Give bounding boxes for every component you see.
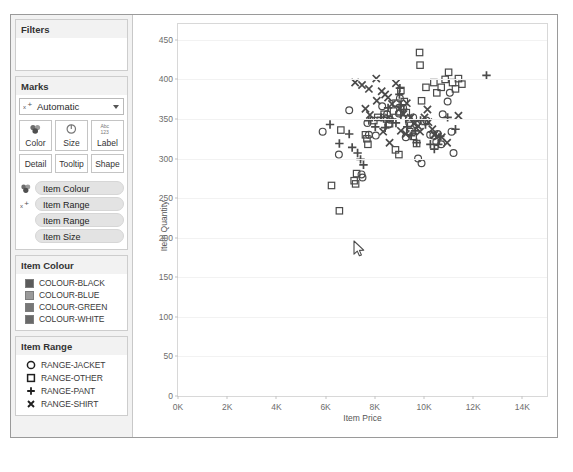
scatter-point[interactable] — [326, 120, 334, 128]
scatter-point[interactable] — [335, 139, 343, 147]
scatter-point[interactable] — [451, 125, 459, 133]
scatter-point[interactable] — [388, 100, 395, 107]
size-button-label: Size — [63, 138, 80, 148]
scatter-point[interactable] — [372, 132, 379, 139]
x-tick-label: 6K — [320, 402, 330, 412]
colour-swatch — [25, 315, 34, 324]
y-gridline — [178, 198, 547, 199]
viz-window: Filters Marks x + Automatic — [10, 14, 558, 438]
color-button[interactable]: Color — [19, 120, 52, 151]
legend-item-label: COLOUR-BLACK — [39, 278, 105, 288]
legend-item[interactable]: RANGE-JACKET — [20, 358, 123, 371]
scatter-point[interactable] — [365, 85, 372, 92]
marks-shelf-item-range-detail[interactable]: Item Range — [16, 212, 127, 228]
colour-swatch — [25, 279, 34, 288]
legend-item[interactable]: RANGE-PANT — [20, 384, 123, 397]
square-icon — [25, 372, 36, 383]
legend-item[interactable]: RANGE-SHIRT — [20, 397, 123, 410]
scatter-point[interactable] — [418, 160, 425, 167]
x-tick-label: 2K — [222, 402, 232, 412]
y-tick-mark — [175, 39, 178, 40]
marks-card: Marks x + Automatic — [15, 76, 128, 250]
tooltip-button[interactable]: Tooltip — [55, 154, 88, 173]
color-palette-icon — [19, 182, 32, 194]
y-tick-label: 100 — [159, 312, 173, 322]
scatter-point[interactable] — [358, 81, 365, 88]
scatter-point[interactable] — [430, 145, 438, 153]
label-abc-icon: Abc 123 — [100, 123, 115, 137]
filters-card-title: Filters — [16, 20, 127, 38]
scatter-point[interactable] — [373, 97, 380, 104]
scatter-point[interactable] — [418, 98, 424, 104]
scatter-point[interactable] — [417, 62, 423, 68]
x-tick-label: 12K — [466, 402, 481, 412]
scatter-point[interactable] — [362, 105, 369, 112]
legend-item[interactable]: RANGE-OTHER — [20, 371, 123, 384]
plot-area[interactable]: 0501001502002503003504004500K2K4K6K8K10K… — [177, 23, 548, 397]
y-tick-label: 350 — [159, 114, 173, 124]
scatter-point[interactable] — [444, 98, 451, 105]
legend-item[interactable]: COLOUR-GREEN — [20, 301, 123, 313]
x-tick-label: 10K — [416, 402, 431, 412]
circle-icon — [25, 359, 36, 370]
shape-button[interactable]: Shape — [91, 154, 124, 173]
scatter-point[interactable] — [386, 139, 393, 146]
legend-item[interactable]: COLOUR-BLACK — [20, 277, 123, 289]
marks-shelf-item-size[interactable]: Item Size — [16, 228, 127, 244]
marks-button-row-2: Detail Tooltip Shape — [16, 154, 127, 176]
y-tick-mark — [175, 198, 178, 199]
legend-item-label: RANGE-PANT — [41, 386, 95, 396]
scatter-point[interactable] — [338, 127, 344, 133]
x-tick-mark — [424, 396, 425, 399]
legend-item-label: RANGE-JACKET — [41, 360, 105, 370]
shelf-pill-label: Item Size — [35, 229, 124, 243]
y-tick-label: 200 — [159, 233, 173, 243]
scatter-point[interactable] — [366, 111, 373, 118]
legend-item[interactable]: COLOUR-WHITE — [20, 313, 123, 325]
legend-colour-body: COLOUR-BLACK COLOUR-BLUE COLOUR-GREEN CO… — [16, 274, 127, 330]
y-gridline — [178, 159, 547, 160]
scatter-point[interactable] — [445, 69, 451, 75]
scatter-point[interactable] — [392, 80, 399, 87]
legend-range-body: RANGE-JACKET RANGE-OTHER RANGE-PANT — [16, 355, 127, 415]
y-gridline — [178, 119, 547, 120]
size-button[interactable]: Size — [55, 120, 88, 151]
marks-shelf-item-range-shape[interactable]: x + Item Range — [16, 196, 127, 212]
label-button[interactable]: Abc 123 Label — [91, 120, 124, 151]
scatter-point[interactable] — [335, 151, 342, 158]
x-tick-mark — [276, 396, 277, 399]
svg-text:x: x — [23, 104, 26, 110]
legend-item[interactable]: COLOUR-BLUE — [20, 289, 123, 301]
scatter-point[interactable] — [348, 143, 356, 151]
y-tick-mark — [175, 316, 178, 317]
scatter-point[interactable] — [346, 107, 353, 114]
scatter-point[interactable] — [319, 128, 326, 135]
legend-range-title: Item Range — [16, 337, 127, 355]
legend-item-label: COLOUR-WHITE — [39, 314, 104, 324]
scatter-point[interactable] — [482, 71, 490, 79]
y-tick-label: 300 — [159, 154, 173, 164]
scatter-point[interactable] — [345, 130, 353, 138]
legend-item-label: COLOUR-GREEN — [39, 302, 107, 312]
scatter-point[interactable] — [424, 106, 431, 113]
mark-type-value: Automatic — [37, 101, 79, 112]
y-gridline — [178, 277, 547, 278]
scatter-point[interactable] — [416, 49, 422, 55]
x-axis-label: Item Price — [177, 413, 548, 423]
y-tick-label: 50 — [164, 351, 173, 361]
scatter-point[interactable] — [450, 150, 457, 157]
scatter-point[interactable] — [403, 100, 410, 107]
scatter-point[interactable] — [328, 182, 334, 188]
mark-type-select[interactable]: x + Automatic — [19, 98, 124, 115]
y-tick-mark — [175, 237, 178, 238]
x-tick-label: 4K — [271, 402, 281, 412]
filters-drop-area[interactable] — [16, 38, 127, 69]
filters-card: Filters — [15, 19, 128, 71]
scatter-point[interactable] — [443, 113, 451, 121]
scatter-point[interactable] — [423, 84, 429, 90]
x-tick-mark — [522, 396, 523, 399]
scatter-point[interactable] — [384, 94, 391, 101]
scatter-point[interactable] — [336, 208, 342, 214]
detail-button[interactable]: Detail — [19, 154, 52, 173]
marks-shelf-item-colour[interactable]: Item Colour — [16, 180, 127, 196]
